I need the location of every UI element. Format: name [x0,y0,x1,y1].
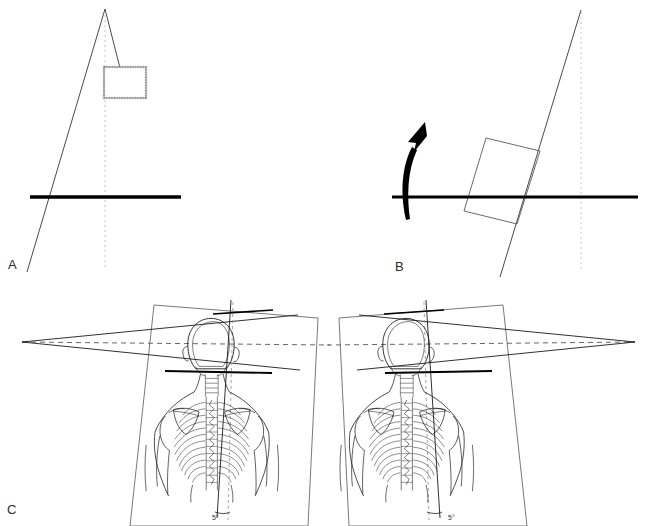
left-figure-horizontal-dashed-reference [22,342,330,345]
left-figure-neck-tangent-bar [165,371,272,373]
angle-label-left: 5° [212,514,219,521]
left-figure-angle-ray-lower [22,342,300,370]
left-figure-angle-ray-upper [22,315,298,342]
panel-label-a: A [8,258,17,271]
panel-label-c: C [7,503,17,516]
panel-c-graphics [0,0,657,526]
left-figure-skeleton-artwork [145,318,279,502]
skeleton-figure-right [327,300,635,526]
right-figure-skeleton-artwork [340,318,474,502]
right-figure-neck-tangent-bar [385,371,492,373]
angle-label-right: 5° [448,514,455,521]
right-figure-horizontal-dashed-reference [327,342,635,345]
panel-label-b: B [395,260,404,273]
figure-root: A B C 5° 5° [0,0,657,526]
skeleton-figure-left [22,300,330,526]
right-figure-head-tangent-bar [384,310,444,314]
right-figure-angle-ray-lower [357,342,635,370]
